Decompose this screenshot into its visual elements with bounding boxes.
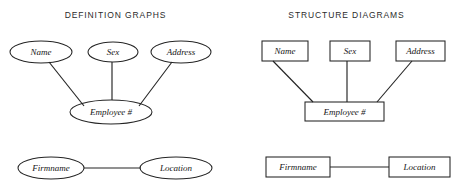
node-box-address[interactable]	[396, 41, 445, 61]
node-ellipse-location[interactable]	[140, 157, 212, 179]
node-box-name[interactable]	[262, 41, 308, 61]
node-ellipse-name[interactable]	[10, 41, 72, 63]
node-box-sex[interactable]	[330, 41, 370, 61]
node-box-location[interactable]	[389, 157, 450, 177]
node-ellipse-employee[interactable]	[70, 100, 152, 124]
diagram-page: DEFINITION GRAPHS STRUCTURE DIAGRAMS Nam…	[0, 0, 462, 193]
edge-name-to-employee	[273, 61, 313, 102]
node-ellipse-address[interactable]	[151, 41, 211, 63]
diagram-canvas	[0, 0, 462, 193]
node-box-employee[interactable]	[305, 102, 384, 121]
edge-name-to-employee	[49, 62, 84, 106]
node-ellipse-firmname[interactable]	[18, 157, 84, 179]
node-box-firmname[interactable]	[266, 157, 330, 177]
edge-address-to-employee	[377, 61, 412, 102]
edge-address-to-employee	[139, 62, 172, 106]
node-ellipse-sex[interactable]	[88, 42, 138, 62]
